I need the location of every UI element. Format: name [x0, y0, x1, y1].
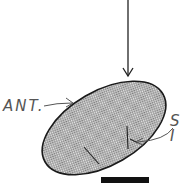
structure-label: S I [170, 114, 190, 144]
specimen-body [27, 62, 182, 188]
anterior-pointer-icon [44, 98, 73, 107]
specimen-figure [0, 0, 190, 188]
scale-bar [101, 177, 149, 183]
anterior-label: ANT. [3, 99, 45, 114]
vertical-arrow-icon [123, 0, 133, 76]
